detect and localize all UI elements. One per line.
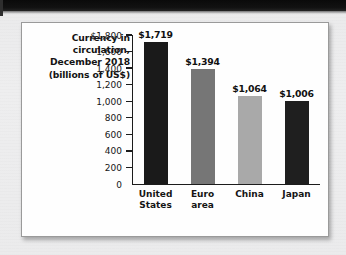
x-axis-category-line: Japan — [282, 189, 310, 200]
y-axis-tick-label: 1,000 — [96, 97, 126, 106]
x-axis-category-label: Japan — [282, 189, 310, 200]
bar-group: $1,064China — [226, 35, 273, 184]
figure-card: Currency incirculation,December 2018(bil… — [21, 22, 329, 237]
bar — [191, 69, 215, 184]
bar-value-label: $1,394 — [185, 56, 220, 67]
bar — [144, 42, 168, 184]
bar — [285, 101, 309, 184]
scan-top-dark-band — [0, 0, 346, 11]
y-axis-tick-label: 1,600 — [96, 48, 126, 57]
y-axis-tick-label: $1,800 — [91, 31, 127, 40]
y-axis-tick-label: 400 — [105, 147, 126, 156]
bar-series: $1,719UnitedStates$1,394Euroarea$1,064Ch… — [132, 35, 320, 184]
x-axis-category-label: China — [235, 189, 264, 200]
y-axis-tick-label: 200 — [105, 163, 126, 172]
y-axis-tick-label: 800 — [105, 114, 126, 123]
x-axis-category-label: UnitedStates — [139, 189, 173, 211]
bar-group: $1,006Japan — [273, 35, 320, 184]
bar-group: $1,394Euroarea — [179, 35, 226, 184]
y-axis-tick-label: 0 — [116, 180, 126, 189]
bar — [238, 96, 262, 184]
bar-value-label: $1,719 — [138, 29, 173, 40]
y-axis-tick-label: 600 — [105, 130, 126, 139]
bar-group: $1,719UnitedStates — [132, 35, 179, 184]
scan-left-dark-edge — [0, 0, 3, 16]
x-axis-category-line: United — [139, 189, 173, 200]
bar-value-label: $1,006 — [279, 88, 314, 99]
x-axis-category-label: Euroarea — [191, 189, 214, 211]
plot-area: $1,8001,6001,4001,2001,0008006004002000 … — [22, 23, 330, 238]
x-axis-category-line: area — [191, 200, 214, 211]
y-axis-tick-label: 1,200 — [96, 81, 126, 90]
y-axis-tick-label: 1,400 — [96, 64, 126, 73]
bar-value-label: $1,064 — [232, 83, 267, 94]
x-axis-category-line: China — [235, 189, 264, 200]
x-axis-category-line: Euro — [191, 189, 214, 200]
x-axis-category-line: States — [139, 200, 173, 211]
